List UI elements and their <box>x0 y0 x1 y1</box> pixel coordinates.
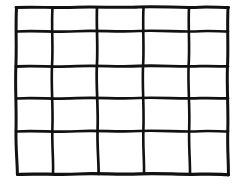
vertical-line-4 <box>143 8 144 174</box>
vertical-line-2 <box>52 8 53 173</box>
horizontal-line-1 <box>16 7 229 8</box>
horizontal-line-2 <box>17 31 229 32</box>
vertical-line-1 <box>16 8 18 175</box>
horizontal-line-6 <box>18 174 229 175</box>
horizontal-line-5 <box>16 131 228 132</box>
vertical-line-6 <box>227 8 228 176</box>
drawing-canvas: Hand-drawn grid sketch A roughly drawn r… <box>0 0 239 196</box>
horizontal-line-3 <box>16 66 228 67</box>
grid-figure: Hand-drawn grid sketch A roughly drawn r… <box>0 0 239 196</box>
horizontal-line-4 <box>17 98 229 99</box>
vertical-line-5 <box>188 8 190 175</box>
